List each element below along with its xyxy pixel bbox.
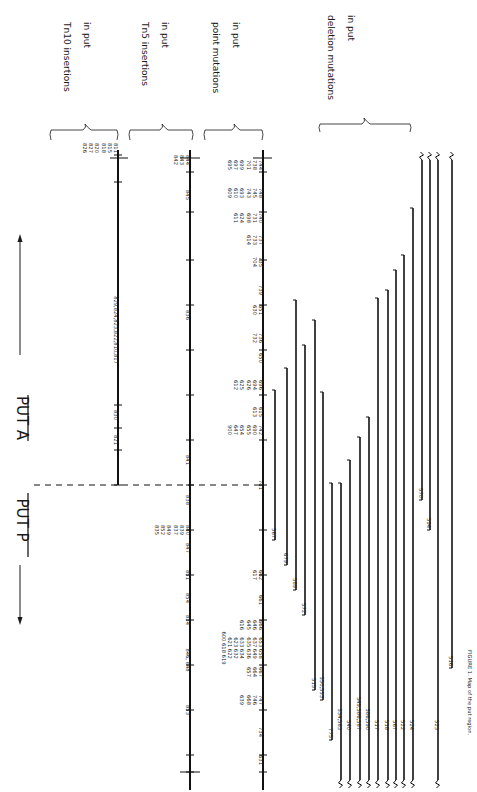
tn5-allele-label: 849 bbox=[166, 525, 172, 535]
tn10-allele-label: 827 bbox=[88, 143, 94, 153]
point-allele-label: 651 bbox=[258, 305, 264, 315]
point-allele-label: 615 bbox=[258, 407, 264, 417]
tn5-allele-label: 847 bbox=[185, 543, 191, 553]
point-allele-label: 664 bbox=[252, 667, 258, 678]
point-allele-label: 701 bbox=[246, 160, 252, 170]
point-allele-label: 733 bbox=[252, 235, 258, 245]
point-allele-label: 731 bbox=[252, 213, 258, 223]
tn5-allele-label: 842 bbox=[173, 155, 179, 165]
point-allele-label: 693 bbox=[239, 188, 245, 198]
point-allele-label: 655 bbox=[246, 425, 252, 435]
point-allele-label: 735 bbox=[258, 257, 264, 267]
map-content: 826827820818815811829,824,823,822,810,81… bbox=[34, 143, 454, 790]
tn5-allele-label: 852 bbox=[160, 525, 166, 535]
point-allele-label: 736 bbox=[258, 333, 264, 343]
deletion-label: 516 bbox=[448, 656, 454, 666]
gene-title-block: PUT A PUT P bbox=[13, 234, 31, 625]
deletion-label: 534,583 bbox=[337, 709, 343, 730]
point-allele-label: 613 bbox=[252, 407, 258, 417]
tn10-allele-label: 829,824,823,822,810,817 bbox=[113, 296, 119, 364]
point-allele-label: 696 bbox=[258, 380, 264, 390]
deletion-label: 515 bbox=[311, 678, 317, 688]
wavy-end-icon bbox=[394, 780, 398, 788]
deletion-label: 522 bbox=[400, 720, 406, 730]
point-allele-label: 747 bbox=[258, 695, 264, 705]
point-allele-label: 743 bbox=[246, 188, 252, 198]
deletion-label: 594 bbox=[426, 518, 432, 529]
tn10-header: Tn10 insertions bbox=[62, 21, 72, 92]
point-allele-label: 617 bbox=[252, 570, 258, 580]
point-allele-label: 745 bbox=[252, 188, 258, 198]
tn5-allele-label: 838 bbox=[185, 495, 191, 505]
tn5-allele-label: 836 bbox=[185, 310, 191, 320]
deletion-label: 523 bbox=[434, 720, 440, 730]
point-allele-label: 695 bbox=[227, 160, 233, 170]
deletion-label: 524 bbox=[409, 720, 415, 731]
point-allele-label: 647 bbox=[233, 425, 239, 435]
point-allele-label: 637 649 bbox=[252, 637, 258, 658]
point-allele-label: 744 bbox=[258, 160, 264, 171]
wavy-end-icon bbox=[376, 780, 380, 788]
point-allele-label: 739 bbox=[258, 285, 264, 295]
genetic-map-figure: PUT A PUT P Tn10 insertions in put Tn5 i… bbox=[0, 0, 477, 792]
point-allele-label: 697 bbox=[233, 160, 239, 170]
deletion-label: 586,590 bbox=[365, 709, 371, 730]
point-allele-label: 623 632 bbox=[233, 637, 239, 658]
point-allele-label: 646 bbox=[252, 620, 258, 630]
point-allele-label: 742 bbox=[258, 425, 264, 435]
arrow-head-up-icon bbox=[18, 234, 23, 242]
section-headers: Tn10 insertions in put Tn5 insertions in… bbox=[50, 15, 411, 140]
point-allele-label: 698 bbox=[246, 213, 252, 223]
deletion-label: 518 bbox=[384, 720, 390, 730]
point-allele-label: 650 bbox=[258, 353, 264, 363]
wavy-end-icon bbox=[420, 152, 424, 160]
deletion-label: 572 bbox=[301, 603, 307, 613]
deletion-label: 540 bbox=[346, 720, 352, 730]
point-allele-label: 625 bbox=[239, 380, 245, 390]
point-allele-label: 624 bbox=[239, 213, 245, 224]
point-header: point mutations bbox=[211, 22, 221, 94]
point-allele-label: 734 bbox=[258, 727, 264, 738]
tn5-allele-label: 844 bbox=[185, 155, 191, 166]
point-allele-label: 611 bbox=[233, 213, 239, 223]
point-allele-label: 616 bbox=[239, 620, 245, 630]
point-allele-label: 626 bbox=[246, 380, 252, 390]
deletion-label: 679 bbox=[283, 553, 289, 563]
tn5-allele-label: 854 bbox=[185, 593, 191, 604]
point-allele-label: 609 bbox=[227, 188, 233, 198]
tn5-allele-label: 853 bbox=[185, 705, 191, 715]
wavy-end-icon bbox=[367, 780, 371, 788]
wavy-end-icon bbox=[348, 780, 352, 788]
point-allele-label: 737 bbox=[258, 235, 264, 245]
point-allele-label: 633 634 bbox=[239, 637, 245, 659]
point-allele-label: 690 bbox=[252, 425, 258, 435]
deletion-label: 567 bbox=[392, 720, 398, 730]
point-allele-label: 639 bbox=[239, 695, 245, 705]
point-allele-label: 667 bbox=[258, 667, 264, 677]
wavy-end-icon bbox=[436, 152, 440, 160]
wavy-end-icon bbox=[386, 780, 390, 788]
wavy-end-icon bbox=[402, 780, 406, 788]
tn5-allele-label: 837 bbox=[173, 525, 179, 535]
tn5-brace bbox=[129, 124, 193, 140]
tn10-allele-label: 818 bbox=[101, 143, 107, 153]
point-allele-label: 610 bbox=[233, 188, 239, 198]
point-allele-label: 600 618 619 bbox=[221, 631, 227, 664]
point-allele-label: 612 bbox=[233, 380, 239, 390]
tn10-allele-label: 811 bbox=[113, 143, 119, 153]
point-allele-label: 732 bbox=[252, 333, 258, 343]
point-allele-label: 668 bbox=[246, 695, 252, 705]
point-allele-label: 630 bbox=[252, 305, 258, 315]
tn10-allele-label: 815 bbox=[107, 143, 113, 153]
wavy-end-icon bbox=[411, 780, 415, 788]
deletion-header: deletion mutations bbox=[326, 15, 336, 100]
point-brace bbox=[204, 124, 263, 140]
point-subheader: in put bbox=[231, 22, 241, 48]
point-allele-label: 653 658 bbox=[258, 637, 264, 658]
tn5-allele-label: 841 bbox=[185, 455, 191, 465]
tn5-subheader: in put bbox=[160, 22, 170, 48]
figure-caption: FIGURE 1. Map of the put region. bbox=[466, 650, 473, 736]
deletion-label: 549,586,587 bbox=[356, 697, 362, 730]
point-allele-label: 654 bbox=[239, 425, 245, 436]
point-allele-label: 699 bbox=[239, 160, 245, 170]
